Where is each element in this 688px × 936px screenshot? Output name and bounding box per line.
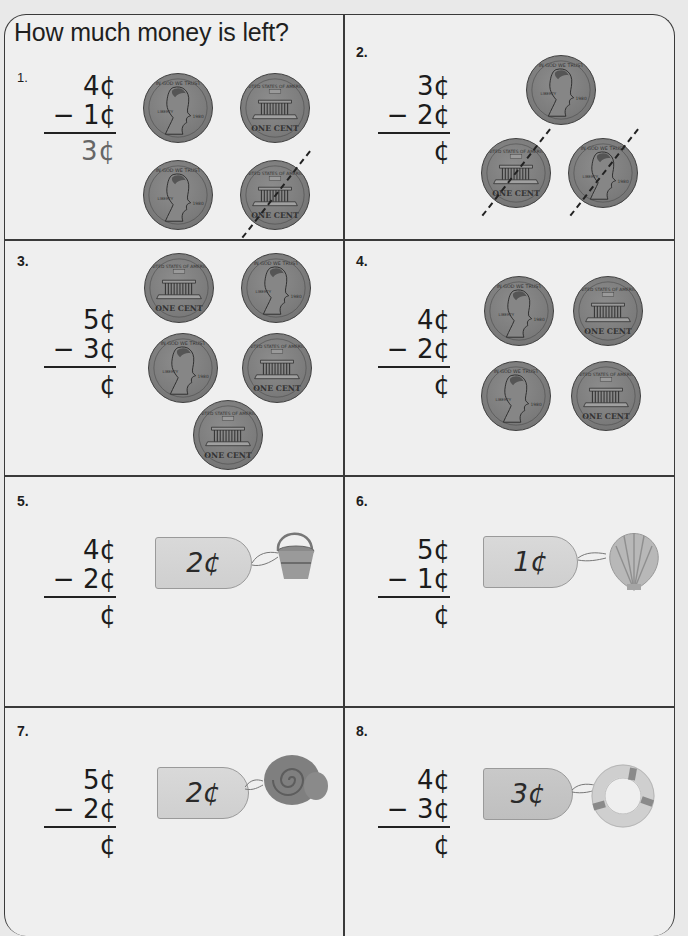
problem-1: 4¢ − 1¢ 3¢: [44, 72, 116, 166]
penny-tails-icon: [193, 400, 263, 470]
penny-heads-icon: [484, 276, 554, 346]
minuend: 5¢: [378, 536, 450, 565]
answer-field[interactable]: ¢: [44, 601, 116, 630]
problem-number: 7.: [17, 723, 29, 739]
problem-number: 3.: [17, 253, 29, 269]
answer-field[interactable]: ¢: [378, 831, 450, 860]
subtrahend: − 3¢: [44, 335, 116, 364]
minuend: 4¢: [378, 766, 450, 795]
minuend: 5¢: [44, 766, 116, 795]
subtrahend: − 1¢: [44, 101, 116, 130]
subtrahend: − 3¢: [378, 795, 450, 824]
answer-field[interactable]: ¢: [378, 371, 450, 400]
problem-number: 2.: [356, 44, 368, 60]
problem-number: 6.: [356, 493, 368, 509]
answer-field[interactable]: ¢: [378, 137, 450, 166]
penny-heads-icon: [143, 160, 213, 230]
answer-field[interactable]: ¢: [378, 601, 450, 630]
problem-4: 4¢ − 2¢ ¢: [378, 306, 450, 400]
row-divider-1: [4, 239, 675, 241]
problem-5: 4¢ − 2¢ ¢: [44, 536, 116, 630]
snail-shell-icon: [258, 752, 332, 810]
problem-number: 5.: [17, 493, 29, 509]
equals-rule: [44, 366, 116, 368]
equals-rule: [44, 132, 116, 134]
sand-bucket-icon: [272, 525, 320, 583]
equals-rule: [378, 132, 450, 134]
problem-6: 5¢ − 1¢ ¢: [378, 536, 450, 630]
answer-field[interactable]: ¢: [44, 831, 116, 860]
problem-7: 5¢ − 2¢ ¢: [44, 766, 116, 860]
minuend: 4¢: [378, 306, 450, 335]
subtrahend: − 2¢: [44, 795, 116, 824]
problem-2: 3¢ − 2¢ ¢: [378, 72, 450, 166]
minuend: 4¢: [44, 72, 116, 101]
problem-number: 4.: [356, 253, 368, 269]
minuend: 4¢: [44, 536, 116, 565]
answer-field[interactable]: 3¢: [44, 137, 116, 166]
penny-tails-icon: [571, 361, 641, 431]
problem-number: 8.: [356, 723, 368, 739]
equals-rule: [44, 596, 116, 598]
price-tag: 1¢: [483, 536, 578, 588]
price-tag: 2¢: [155, 537, 252, 589]
worksheet-title: How much money is left?: [14, 18, 289, 47]
subtrahend: − 1¢: [378, 565, 450, 594]
minuend: 5¢: [44, 306, 116, 335]
subtrahend: − 2¢: [378, 101, 450, 130]
penny-heads-icon: [148, 333, 218, 403]
penny-heads-icon: [481, 361, 551, 431]
price-tag: 2¢: [157, 767, 249, 819]
problem-number: 1.: [17, 70, 28, 85]
equals-rule: [44, 826, 116, 828]
answer-field[interactable]: ¢: [44, 371, 116, 400]
row-divider-3: [4, 706, 675, 708]
equals-rule: [378, 596, 450, 598]
problem-8: 4¢ − 3¢ ¢: [378, 766, 450, 860]
penny-heads-icon: [526, 55, 596, 125]
penny-tails-icon: [240, 73, 310, 143]
life-ring-icon: [589, 762, 657, 830]
problem-3: 5¢ − 3¢ ¢: [44, 306, 116, 400]
penny-tails-icon: [242, 333, 312, 403]
penny-tails-icon: [573, 276, 643, 346]
price-tag: 3¢: [483, 768, 573, 820]
scallop-shell-icon: [602, 528, 666, 596]
subtrahend: − 2¢: [44, 565, 116, 594]
equals-rule: [378, 366, 450, 368]
penny-heads-icon: [143, 73, 213, 143]
penny-tails-icon: [144, 253, 214, 323]
minuend: 3¢: [378, 72, 450, 101]
penny-heads-icon: [241, 253, 311, 323]
row-divider-2: [4, 475, 675, 477]
equals-rule: [378, 826, 450, 828]
subtrahend: − 2¢: [378, 335, 450, 364]
